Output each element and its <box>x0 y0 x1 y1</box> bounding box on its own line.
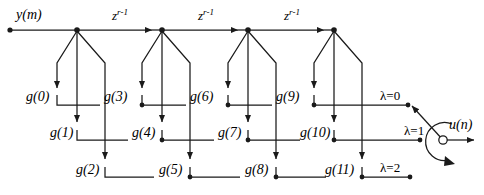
tap-branch-group-stage-3 <box>314 31 420 177</box>
delay-label-2: zr-1 <box>198 8 214 22</box>
tap-label-g8: g(8) <box>245 163 268 177</box>
tap-label-g10: g(10) <box>300 126 330 140</box>
branch-g9-diagonal <box>314 31 334 88</box>
tap-label-g9: g(9) <box>276 90 299 104</box>
figure-canvas: y(m) u(n) zr-1 zr-1 zr-1 g(0) g(1) g(2) … <box>0 0 484 195</box>
tap-label-g7: g(7) <box>218 126 241 140</box>
delay-label-3: zr-1 <box>284 8 300 22</box>
input-label: y(m) <box>16 8 42 22</box>
output-label: u(n) <box>449 118 472 132</box>
tap-label-g1: g(1) <box>50 126 73 140</box>
tap-label-g3: g(3) <box>104 90 127 104</box>
tap-label-g11: g(11) <box>325 163 354 177</box>
tap-branch-group-stage-2 <box>228 31 326 177</box>
tap-label-g4: g(4) <box>132 126 155 140</box>
tap-label-g5: g(5) <box>159 163 182 177</box>
input-node-dot <box>7 27 12 32</box>
commutator-rotation-arrowhead <box>444 156 455 166</box>
row-label-lambda-1: λ=1 <box>404 124 424 137</box>
tap-label-g2: g(2) <box>76 163 99 177</box>
row-label-lambda-2: λ=2 <box>380 161 400 174</box>
tap-branch-group-stage-1 <box>142 31 240 177</box>
tap-branch-group-stage-0 <box>57 31 154 177</box>
tap-label-g6: g(6) <box>190 90 213 104</box>
row-label-lambda-0: λ=0 <box>380 89 400 102</box>
branch-g0-diagonal <box>57 31 77 88</box>
branch-g3-diagonal <box>142 31 162 88</box>
signal-flow-diagram <box>0 0 484 195</box>
commutator-pivot <box>439 136 447 144</box>
branch-g6-diagonal <box>228 31 248 88</box>
delay-label-1: zr-1 <box>112 8 128 22</box>
tap-label-g0: g(0) <box>26 90 49 104</box>
